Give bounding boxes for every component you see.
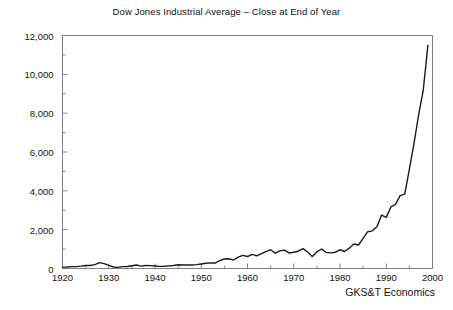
plot-frame	[63, 36, 433, 269]
x-axis-tick-label: 1920	[52, 272, 73, 283]
credit-annotation: GKS&T Economics	[345, 286, 435, 298]
x-axis-tick-label: 1960	[237, 272, 258, 283]
y-axis-tick-label: 8,000	[8, 108, 54, 119]
y-axis-tick-label: 0	[8, 263, 54, 274]
x-axis-tick-label: 1930	[98, 272, 119, 283]
y-axis-tick-label: 6,000	[8, 147, 54, 158]
y-axis-tick-label: 2,000	[8, 224, 54, 235]
x-axis-tick-label: 1940	[144, 272, 165, 283]
chart-figure: Dow Jones Industrial Average – Close at …	[0, 0, 453, 310]
y-axis-tick-label: 12,000	[8, 30, 54, 41]
x-axis-tick-label: 1970	[283, 272, 304, 283]
x-axis-tick-label: 2000	[422, 272, 443, 283]
y-axis-tick-label: 4,000	[8, 185, 54, 196]
y-axis-tick-label: 10,000	[8, 69, 54, 80]
x-axis-tick-label: 1980	[329, 272, 350, 283]
plot-area	[0, 0, 453, 310]
x-axis-tick-label: 1990	[376, 272, 397, 283]
x-axis-tick-label: 1950	[191, 272, 212, 283]
